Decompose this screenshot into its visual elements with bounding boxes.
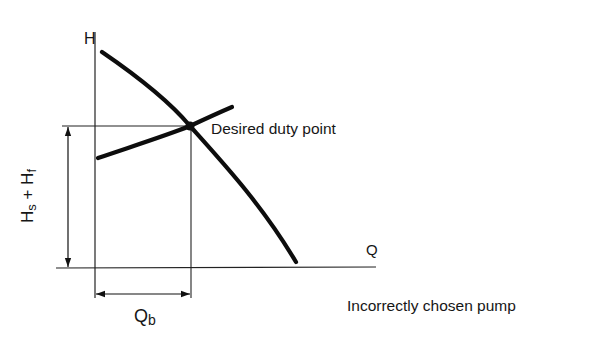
duty-point-marker (186, 122, 195, 131)
head-dimension-label: Hs + Hf (19, 169, 38, 223)
diagram-canvas (0, 0, 595, 342)
head-friction-subscript: f (24, 169, 39, 173)
head-friction-symbol: H (18, 173, 37, 185)
flow-dimension-label: Qb (134, 307, 156, 327)
flow-subscript: b (148, 312, 156, 328)
head-static-symbol: H (18, 211, 37, 223)
duty-point-label: Desired duty point (211, 121, 336, 137)
q-axis (56, 267, 376, 268)
plus-sign: + (18, 185, 37, 204)
flow-symbol: Q (134, 306, 148, 326)
figure-caption: Incorrectly chosen pump (347, 298, 516, 314)
q-axis-label: Q (366, 242, 378, 257)
pump-curve (102, 52, 296, 262)
h-axis-label: H (84, 31, 96, 47)
head-static-subscript: s (24, 204, 39, 211)
